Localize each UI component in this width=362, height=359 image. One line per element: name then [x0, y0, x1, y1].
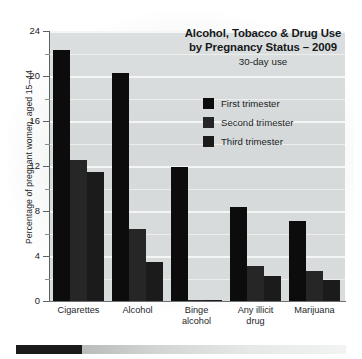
x-axis-label-line: Marijuana: [277, 305, 352, 316]
x-axis-line: [49, 301, 346, 302]
legend-label: Third trimester: [221, 136, 283, 147]
legend-swatch-icon: [203, 98, 214, 109]
bar: [247, 266, 264, 301]
bar-group: [53, 31, 104, 301]
legend-swatch-icon: [203, 136, 214, 147]
bar-group: [171, 31, 222, 301]
y-axis-minor-tick: [45, 99, 50, 100]
y-axis-tick-label: 12: [30, 160, 40, 171]
bar: [323, 280, 340, 301]
y-axis-tick-label: 24: [30, 25, 40, 36]
y-axis-tick-label: 8: [35, 205, 40, 216]
chart-legend: First trimesterSecond trimesterThird tri…: [203, 95, 294, 152]
y-axis-tick: 16: [43, 121, 50, 122]
bar: [70, 160, 87, 301]
bar: [53, 50, 70, 301]
y-axis-tick-label: 16: [30, 115, 40, 126]
y-axis-tick: 24: [43, 31, 50, 32]
bar: [306, 271, 323, 301]
y-axis-tick: 12: [43, 166, 50, 167]
chart-title-line-2: by Pregnancy Status – 2009: [168, 40, 358, 54]
x-axis-label-line: drug: [218, 316, 293, 327]
y-axis-tick-label: 4: [35, 250, 40, 261]
plot-area: [50, 31, 345, 301]
y-axis-tick: 20: [43, 76, 50, 77]
y-axis-minor-tick: [45, 144, 50, 145]
bar: [171, 167, 188, 301]
y-axis-minor-tick: [45, 189, 50, 190]
bars-layer: [50, 31, 345, 301]
chart-title-line-1: Alcohol, Tobacco & Drug Use: [168, 26, 358, 40]
bar: [112, 73, 129, 301]
footer-progress-bar: [16, 345, 346, 354]
chart-page: Percentage of pregnant women, aged 15–44…: [0, 0, 362, 359]
chart-title-block: Alcohol, Tobacco & Drug Use by Pregnancy…: [168, 26, 358, 68]
bar: [87, 172, 104, 301]
bar-chart-figure: Percentage of pregnant women, aged 15–44…: [0, 0, 362, 332]
bar: [230, 207, 247, 302]
bar-group: [230, 31, 281, 301]
y-axis-tick-label: 20: [30, 70, 40, 81]
x-axis-label: Marijuana: [277, 305, 352, 316]
y-axis-tick: 4: [43, 256, 50, 257]
y-axis-minor-tick: [45, 279, 50, 280]
bar: [129, 229, 146, 301]
chart-subtitle: 30-day use: [168, 55, 358, 68]
bar: [146, 262, 163, 301]
bar: [289, 221, 306, 301]
y-axis-tick-label: 0: [35, 295, 40, 306]
y-axis-minor-tick: [45, 54, 50, 55]
legend-label: Second trimester: [221, 117, 294, 128]
bar-group: [289, 31, 340, 301]
y-axis-minor-tick: [45, 234, 50, 235]
bar: [264, 276, 281, 301]
legend-item[interactable]: Second trimester: [203, 114, 294, 131]
legend-item[interactable]: Third trimester: [203, 133, 294, 150]
bar-group: [112, 31, 163, 301]
legend-item[interactable]: First trimester: [203, 95, 294, 112]
legend-swatch-icon: [203, 117, 214, 128]
legend-label: First trimester: [221, 98, 280, 109]
y-axis-tick: 8: [43, 211, 50, 212]
